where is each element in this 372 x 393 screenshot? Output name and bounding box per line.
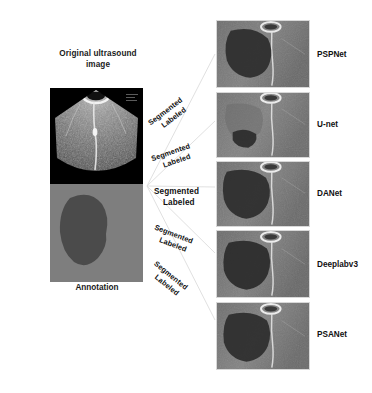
fan-label-deeplabv3: Segmented Labeled — [150, 223, 195, 255]
result-image-deeplabv3-graphic — [217, 231, 309, 298]
result-label-deeplabv3: Deeplabv3 — [317, 260, 358, 269]
annotation-caption: Annotation — [48, 283, 146, 292]
fan-label-u-net: Segmented Labeled — [150, 141, 195, 172]
result-image-pspnet — [216, 20, 310, 88]
annotation-mask-graphic — [50, 184, 143, 282]
result-image-psanet-graphic — [217, 303, 309, 370]
result-label-pspnet: PSPNet — [317, 50, 347, 59]
fan-label-pspnet: Segmented Labeled — [146, 95, 190, 135]
result-image-deeplabv3 — [216, 230, 310, 298]
result-image-danet-graphic — [217, 162, 309, 227]
segmentation-comparison-figure: Original ultrasound image — [0, 0, 372, 393]
original-image-title-line2: image — [86, 60, 110, 69]
result-image-pspnet-graphic — [217, 21, 309, 88]
result-image-psanet — [216, 302, 310, 370]
annotation-mask-image — [50, 184, 143, 282]
result-image-danet — [216, 161, 310, 227]
result-image-u-net — [216, 92, 310, 158]
original-image-title-line1: Original ultrasound — [59, 49, 136, 58]
original-ultrasound-image — [50, 88, 143, 184]
original-ultrasound-image-graphic — [50, 88, 143, 184]
result-image-u-net-graphic — [217, 93, 309, 158]
fan-label-danet-line1: Segmented — [154, 187, 199, 196]
fan-label-danet: Segmented Labeled — [154, 186, 199, 208]
fan-label-psanet: Segmented Labeled — [146, 259, 190, 299]
result-label-danet: DANet — [317, 189, 342, 198]
original-image-title: Original ultrasound image — [28, 48, 168, 70]
fan-label-danet-line2: Labeled — [154, 197, 199, 208]
result-label-psanet: PSANet — [317, 330, 347, 339]
result-label-u-net: U-net — [317, 120, 338, 129]
